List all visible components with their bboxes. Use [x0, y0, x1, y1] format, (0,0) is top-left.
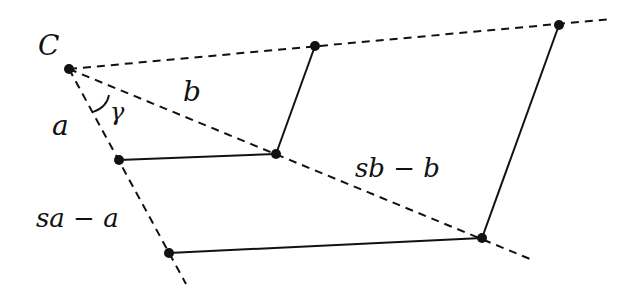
ray-top	[69, 19, 612, 69]
segment-a1-b1	[119, 154, 276, 160]
diagram-canvas	[0, 0, 636, 296]
point-b-1	[271, 149, 281, 159]
point-c	[64, 64, 74, 74]
segment-b2-top2	[482, 25, 559, 238]
point-a-2	[164, 248, 174, 258]
segment-b1-top1	[276, 46, 315, 154]
point-top-2	[554, 20, 564, 30]
side-label-b: b	[183, 78, 201, 106]
point-b-2	[477, 233, 487, 243]
point-top-1	[310, 41, 320, 51]
angle-gamma-arc	[93, 95, 109, 112]
point-a-1	[114, 155, 124, 165]
ray-b	[69, 69, 530, 259]
vertex-label-c: C	[38, 32, 59, 60]
extension-label-sa-minus-a: sa − a	[36, 205, 119, 231]
extension-label-sb-minus-b: sb − b	[355, 155, 440, 181]
side-label-a: a	[52, 112, 69, 140]
angle-label-gamma: γ	[110, 100, 124, 124]
segment-a2-b2	[169, 238, 482, 253]
